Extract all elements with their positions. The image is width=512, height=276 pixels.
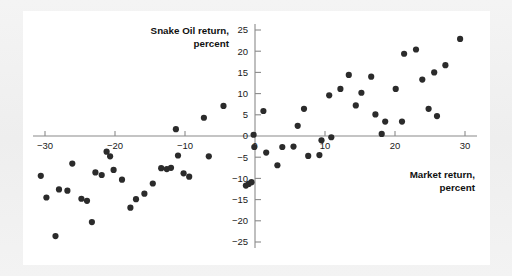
- y-tick-label: 10: [237, 88, 248, 99]
- data-point: [92, 169, 98, 175]
- data-point: [201, 115, 207, 121]
- data-point: [56, 186, 62, 192]
- data-point: [419, 77, 425, 83]
- data-point: [133, 196, 139, 202]
- y-tick-label: 15: [237, 67, 248, 78]
- data-point: [346, 72, 352, 78]
- y-tick-label: 20: [237, 46, 248, 57]
- y-tick-label: −25: [232, 236, 248, 247]
- data-point: [372, 111, 378, 117]
- data-point: [457, 36, 463, 42]
- data-point: [442, 62, 448, 68]
- chart-canvas: −30−20−100102030−25−20−15−10−50510152025…: [23, 11, 490, 265]
- y-tick-label: −20: [232, 215, 248, 226]
- data-point: [305, 153, 311, 159]
- data-point: [393, 86, 399, 92]
- data-point: [38, 173, 44, 179]
- data-point: [301, 106, 307, 112]
- data-point: [248, 179, 254, 185]
- data-point: [401, 51, 407, 57]
- data-point: [263, 149, 269, 155]
- data-point: [107, 153, 113, 159]
- data-point: [426, 106, 432, 112]
- data-point: [111, 167, 117, 173]
- data-point: [251, 144, 257, 150]
- data-point: [260, 108, 266, 114]
- data-point: [181, 170, 187, 176]
- screenshot-root: −30−20−100102030−25−20−15−10−50510152025…: [0, 0, 512, 276]
- data-point: [379, 131, 385, 137]
- y-tick-label: 25: [237, 24, 248, 35]
- data-point: [127, 205, 133, 211]
- data-point: [413, 46, 419, 52]
- x-tick-label: −30: [37, 140, 53, 151]
- data-point: [318, 137, 324, 143]
- data-point: [168, 165, 174, 171]
- data-point: [52, 233, 58, 239]
- data-point: [69, 160, 75, 166]
- y-axis-title-line1: Snake Oil return,: [151, 25, 230, 36]
- data-point: [141, 191, 147, 197]
- data-point: [290, 144, 296, 150]
- y-tick-label: −10: [232, 173, 248, 184]
- data-point: [186, 174, 192, 180]
- data-point: [431, 69, 437, 75]
- data-point: [158, 165, 164, 171]
- data-point: [434, 113, 440, 119]
- data-point: [99, 172, 105, 178]
- data-point: [279, 144, 285, 150]
- data-point: [295, 123, 301, 129]
- figure-card: −30−20−100102030−25−20−15−10−50510152025…: [23, 11, 490, 265]
- data-point: [358, 90, 364, 96]
- data-point: [399, 118, 405, 124]
- data-point: [316, 152, 322, 158]
- data-point: [353, 102, 359, 108]
- data-point: [274, 162, 280, 168]
- data-points-group: [38, 36, 464, 239]
- data-point: [64, 188, 70, 194]
- y-tick-label: 0: [243, 130, 248, 141]
- data-point: [326, 92, 332, 98]
- data-point: [173, 126, 179, 132]
- data-point: [328, 134, 334, 140]
- data-point: [89, 219, 95, 225]
- data-point: [337, 86, 343, 92]
- data-point: [206, 153, 212, 159]
- y-tick-label: −15: [232, 194, 248, 205]
- y-axis-title-line2: percent: [194, 38, 230, 49]
- x-tick-label: −20: [107, 140, 123, 151]
- x-tick-label: 20: [390, 140, 401, 151]
- x-axis-title-line2: percent: [440, 182, 476, 193]
- data-point: [84, 198, 90, 204]
- data-point: [43, 194, 49, 200]
- data-point: [119, 177, 125, 183]
- data-point: [175, 152, 181, 158]
- scatter-plot: −30−20−100102030−25−20−15−10−50510152025…: [23, 11, 490, 265]
- data-point: [220, 103, 226, 109]
- y-tick-label: 5: [243, 109, 248, 120]
- x-tick-label: 30: [460, 140, 471, 151]
- data-point: [78, 196, 84, 202]
- x-tick-label: −10: [177, 140, 193, 151]
- y-tick-label: −5: [237, 152, 248, 163]
- x-axis-title-line1: Market return,: [410, 169, 476, 180]
- data-point: [251, 132, 257, 138]
- data-point: [382, 118, 388, 124]
- data-point: [150, 180, 156, 186]
- data-point: [368, 74, 374, 80]
